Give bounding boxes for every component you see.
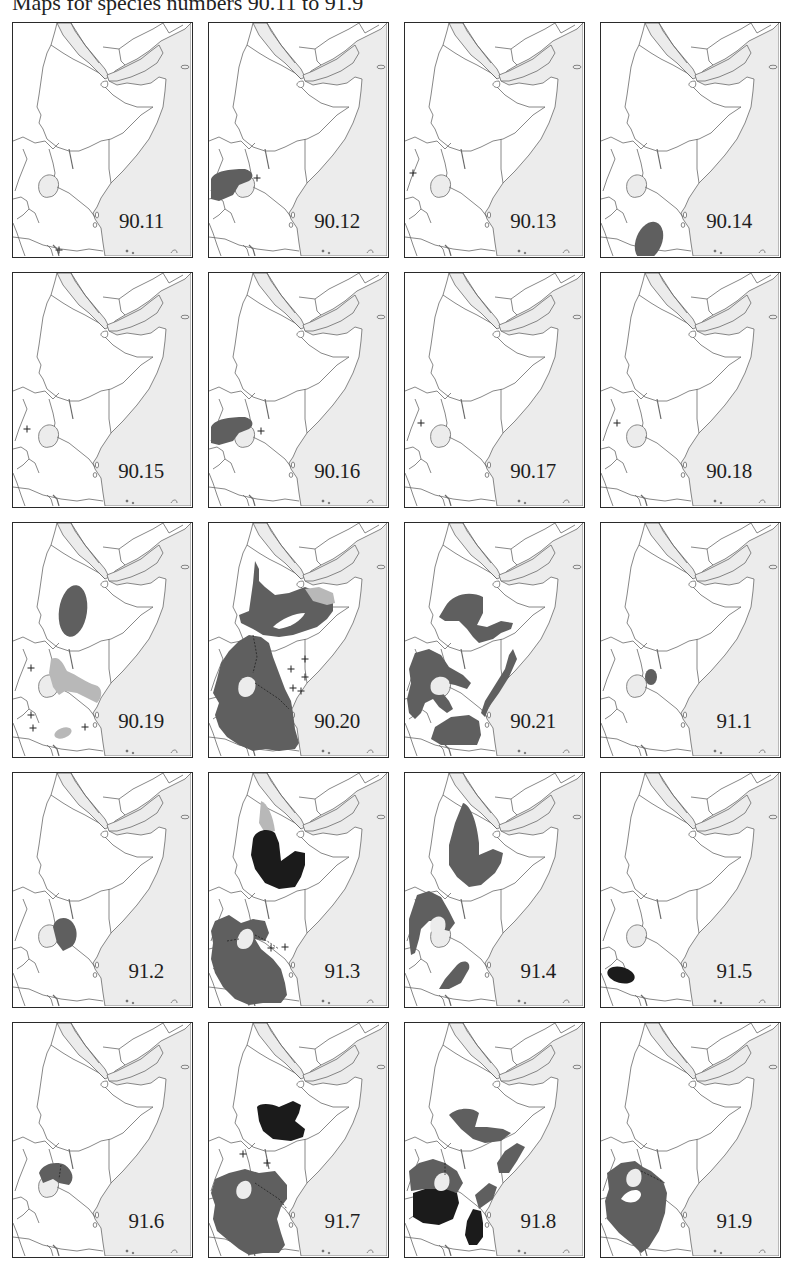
record-cross-icon	[614, 420, 621, 427]
range-fill-light	[49, 658, 101, 703]
distribution-map	[209, 1023, 387, 1256]
map-panel: 91.9	[600, 1022, 781, 1258]
record-cross-icon	[24, 426, 31, 433]
species-number: 90.15	[118, 459, 164, 484]
distribution-map	[13, 1023, 191, 1256]
map-grid: 90.11 90.12 90.13 90.14 90.15	[12, 22, 782, 1269]
distribution-map	[13, 273, 191, 506]
species-number: 91.5	[716, 959, 752, 984]
distribution-map	[405, 773, 583, 1006]
map-panel: 90.18	[600, 272, 781, 508]
record-cross-icon	[290, 685, 297, 692]
range-fill	[439, 594, 513, 643]
map-panel: 91.5	[600, 772, 781, 1008]
map-panel: 90.19	[12, 522, 193, 758]
distribution-map	[601, 523, 779, 756]
record-cross-icon	[30, 725, 37, 732]
range-fill-black	[465, 1209, 483, 1245]
range-fill-black	[413, 1189, 459, 1225]
map-panel: 91.6	[12, 1022, 193, 1258]
species-number: 90.18	[706, 459, 752, 484]
distribution-map	[405, 23, 583, 256]
distribution-map	[601, 1023, 779, 1256]
record-cross-icon	[418, 420, 425, 427]
species-number: 90.17	[510, 459, 556, 484]
range-fill	[56, 583, 91, 638]
distribution-map	[405, 273, 583, 506]
distribution-map	[405, 1023, 583, 1256]
species-number: 91.3	[324, 959, 360, 984]
range-fill-black	[605, 964, 636, 987]
species-number: 91.2	[128, 959, 164, 984]
distribution-map	[13, 773, 191, 1006]
species-number: 91.1	[716, 709, 752, 734]
species-number: 91.7	[324, 1209, 360, 1234]
range-fill-black	[257, 1101, 305, 1141]
range-fill-black	[251, 830, 305, 889]
page-title: Maps for species numbers 90.11 to 91.9	[12, 0, 363, 15]
map-panel: 91.1	[600, 522, 781, 758]
map-panel: 90.12	[208, 22, 389, 258]
map-panel: 91.7	[208, 1022, 389, 1258]
range-fill	[645, 669, 657, 685]
record-cross-icon	[302, 656, 309, 663]
record-cross-icon	[28, 665, 35, 672]
range-fill	[431, 715, 481, 745]
species-number: 90.20	[314, 709, 360, 734]
map-panel: 90.17	[404, 272, 585, 508]
distribution-map	[601, 773, 779, 1006]
map-panel: 90.15	[12, 272, 193, 508]
distribution-map	[209, 273, 387, 506]
distribution-map	[209, 773, 387, 1006]
map-panel: 91.2	[12, 772, 193, 1008]
map-panel: 90.14	[600, 22, 781, 258]
species-number: 90.14	[706, 209, 752, 234]
record-cross-icon	[254, 175, 261, 182]
range-fill-light	[259, 801, 275, 833]
range-fill	[439, 962, 469, 989]
map-panel: 90.16	[208, 272, 389, 508]
record-cross-icon	[28, 712, 35, 719]
range-fill	[211, 915, 287, 1005]
species-number: 90.13	[510, 209, 556, 234]
record-cross-icon	[82, 724, 89, 731]
distribution-map	[601, 273, 779, 506]
species-number: 90.16	[314, 459, 360, 484]
species-number: 90.11	[119, 209, 164, 234]
map-panel: 90.11	[12, 22, 193, 258]
record-cross-icon	[264, 1160, 271, 1167]
range-fill	[629, 218, 668, 256]
species-number: 91.6	[128, 1209, 164, 1234]
record-cross-icon	[302, 674, 309, 681]
species-number: 91.4	[520, 959, 556, 984]
distribution-map	[209, 23, 387, 256]
range-fill	[449, 803, 503, 887]
map-panel: 91.4	[404, 772, 585, 1008]
distribution-map	[601, 23, 779, 256]
species-number: 91.9	[716, 1209, 752, 1234]
map-panel: 91.3	[208, 772, 389, 1008]
record-cross-icon	[258, 428, 265, 435]
distribution-map	[13, 523, 191, 756]
species-number: 90.21	[510, 709, 556, 734]
record-cross-icon	[410, 170, 417, 177]
range-fill-light	[53, 725, 73, 741]
record-cross-icon	[282, 944, 289, 951]
species-number: 91.8	[520, 1209, 556, 1234]
distribution-map	[209, 523, 387, 756]
species-number: 90.12	[314, 209, 360, 234]
map-panel: 90.21	[404, 522, 585, 758]
map-panel: 90.20	[208, 522, 389, 758]
map-panel: 91.8	[404, 1022, 585, 1258]
distribution-map	[405, 523, 583, 756]
distribution-map	[13, 23, 191, 256]
range-fill	[211, 1169, 287, 1255]
map-panel: 90.13	[404, 22, 585, 258]
range-fill	[449, 1109, 511, 1143]
record-cross-icon	[288, 666, 295, 673]
species-number: 90.19	[118, 709, 164, 734]
record-cross-icon	[56, 247, 63, 254]
